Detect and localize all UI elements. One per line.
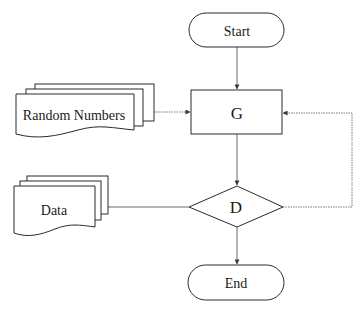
data-multi-document: Data xyxy=(14,176,108,236)
random-numbers-label: Random Numbers xyxy=(23,108,125,123)
process-g: G xyxy=(191,90,282,134)
data-label: Data xyxy=(41,203,68,218)
end-label: End xyxy=(225,276,248,291)
start-label: Start xyxy=(224,24,251,39)
connector-d-loop-to-g xyxy=(283,113,352,207)
start-terminator: Start xyxy=(189,13,284,47)
random-numbers-multi-document: Random Numbers xyxy=(16,84,154,137)
d-label: D xyxy=(230,198,242,217)
end-terminator: End xyxy=(188,265,284,300)
flowchart-canvas: Start G Random Numbers Data D End xyxy=(0,0,361,314)
g-label: G xyxy=(231,104,243,123)
decision-d: D xyxy=(189,186,283,227)
